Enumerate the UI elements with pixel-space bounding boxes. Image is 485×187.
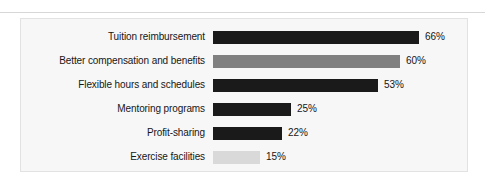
bar-category-label: Better compensation and benefits [21,55,213,67]
bar-row: Flexible hours and schedules 53% [21,73,467,97]
chart-page: Tuition reimbursement 66% Better compens… [0,0,485,187]
bar-value-label: 53% [378,79,404,91]
bar-fill [213,103,291,116]
bar-track: 22% [213,127,467,140]
bar-value-label: 15% [260,151,286,163]
bar-category-label: Mentoring programs [21,103,213,115]
bar-value-label: 22% [282,127,308,139]
bar-track: 66% [213,31,467,44]
bar-fill [213,31,419,44]
bar-value-label: 66% [419,31,445,43]
bar-track: 53% [213,79,467,92]
top-divider [0,12,485,13]
bar-chart-panel: Tuition reimbursement 66% Better compens… [20,18,468,172]
bar-category-label: Flexible hours and schedules [21,79,213,91]
bar-fill [213,79,378,92]
bar-fill [213,127,282,140]
bar-row: Tuition reimbursement 66% [21,25,467,49]
bar-fill [213,151,260,164]
bar-row: Mentoring programs 25% [21,97,467,121]
bar-category-label: Exercise facilities [21,151,213,163]
bar-chart-rows: Tuition reimbursement 66% Better compens… [21,25,467,169]
bar-value-label: 60% [400,55,426,67]
bar-fill [213,55,400,68]
bar-category-label: Tuition reimbursement [21,31,213,43]
bar-track: 60% [213,55,467,68]
bar-track: 25% [213,103,467,116]
bar-row: Better compensation and benefits 60% [21,49,467,73]
bar-row: Profit-sharing 22% [21,121,467,145]
bar-value-label: 25% [291,103,317,115]
bar-track: 15% [213,151,467,164]
bar-category-label: Profit-sharing [21,127,213,139]
bar-row: Exercise facilities 15% [21,145,467,169]
